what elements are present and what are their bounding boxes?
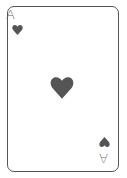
heart-icon [99,137,110,147]
heart-icon [12,25,23,35]
heart-icon [50,77,74,99]
card-rank-bottom-right: A [99,152,108,165]
card-rank-top-left: A [6,8,15,21]
